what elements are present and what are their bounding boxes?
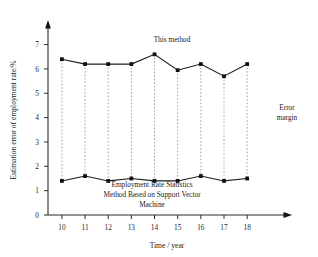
y-tick-label: 4 (35, 113, 39, 122)
y-tick-label: 0 (35, 211, 39, 220)
y-tick-label: 5 (35, 89, 39, 98)
data-point-marker (60, 57, 64, 61)
y-axis-title: Estimation error of employment rate/% (9, 60, 18, 180)
x-tick-group: 101112131415161718 (58, 215, 251, 232)
data-point-marker (245, 177, 249, 181)
x-tick-label: 10 (58, 223, 66, 232)
data-point-marker (199, 174, 203, 178)
employment-rate-error-chart: 01234567 101112131415161718 Time / year … (0, 0, 318, 257)
data-point-marker (153, 52, 157, 56)
x-tick-label: 18 (243, 223, 251, 232)
x-tick-label: 14 (151, 223, 159, 232)
x-tick-label: 13 (128, 223, 136, 232)
data-point-marker (222, 74, 226, 78)
annotation-this-method: This method (154, 35, 191, 44)
annotation-error-margin-line1: Error (279, 103, 295, 112)
y-tick-label: 3 (35, 138, 39, 147)
data-point-marker (83, 174, 87, 178)
y-tick-label: 6 (35, 65, 39, 74)
data-point-marker (106, 62, 110, 66)
y-tick-label: 7 (35, 40, 39, 49)
data-point-marker (222, 179, 226, 183)
y-axis-arrow (45, 20, 51, 29)
x-tick-label: 11 (81, 223, 88, 232)
annotation-svm-caption-line2: Method Based on Support Vector (103, 190, 201, 199)
y-tick-label: 2 (35, 162, 39, 171)
x-tick-label: 17 (220, 223, 228, 232)
data-point-marker (245, 62, 249, 66)
data-point-marker (129, 62, 133, 66)
chart-container: 01234567 101112131415161718 Time / year … (0, 0, 318, 257)
data-point-marker (83, 62, 87, 66)
annotation-error-margin-line2: margin (277, 113, 298, 122)
annotation-svm-caption-line3: Machine (139, 200, 165, 209)
x-tick-label: 12 (105, 223, 113, 232)
data-point-marker (199, 62, 203, 66)
data-point-marker (176, 68, 180, 72)
x-axis-arrow (284, 212, 293, 218)
y-tick-label: 1 (35, 186, 39, 195)
x-axis-title: Time / year (150, 241, 185, 250)
annotation-svm-caption-line1: Employment Rate Statistics (111, 180, 192, 189)
x-tick-label: 15 (174, 223, 182, 232)
x-tick-label: 16 (197, 223, 205, 232)
data-point-marker (106, 179, 110, 183)
y-tick-group: 01234567 (35, 40, 48, 219)
data-point-marker (60, 179, 64, 183)
